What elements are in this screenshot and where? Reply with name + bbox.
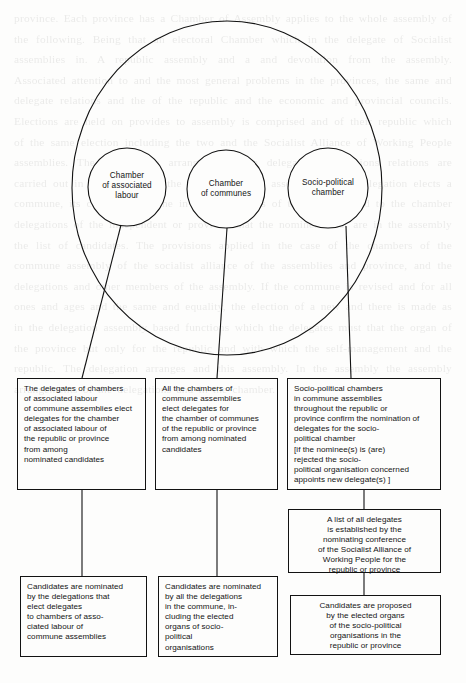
box-candidates-proposed-elected-organs[interactable]: Candidates are proposed by the elected o… (290, 595, 441, 655)
connector-chamber3-to-box3 (346, 226, 351, 378)
diagram-page: province. Each province has a Chamber of… (0, 0, 466, 683)
box-candidates-nominated-delegations[interactable]: Candidates are nominated by the delegati… (20, 576, 147, 657)
box-list-of-delegates[interactable]: A list of all delegates is established b… (288, 509, 441, 573)
box-candidates-nominated-commune[interactable]: Candidates are nominated by all the dele… (158, 576, 278, 657)
socio-political-chamber-label: Socio-political chamber (288, 178, 368, 198)
box-socio-political-chambers[interactable]: Socio-political chambers in commune asse… (287, 378, 441, 490)
chamber-associated-labour-label: Chamber of associated labour (87, 171, 167, 202)
box-delegates-associated-labour[interactable]: The delegates of chambers of associated … (17, 378, 146, 490)
connector-chamber1-to-box1 (82, 225, 121, 378)
chamber-communes-label: Chamber of communes (186, 179, 266, 199)
box-chambers-commune-assemblies[interactable]: All the chambers of commune assemblies e… (155, 378, 278, 490)
